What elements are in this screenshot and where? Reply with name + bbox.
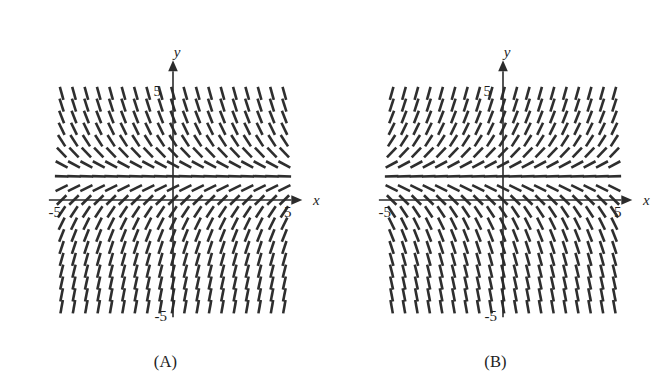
- panel-a-caption: (A): [0, 352, 337, 372]
- svg-text:y: y: [502, 44, 511, 60]
- svg-text:5: 5: [154, 83, 162, 99]
- panel-b: yx5-5-55 (B): [330, 0, 661, 386]
- svg-text:-5: -5: [485, 308, 498, 324]
- svg-text:x: x: [312, 192, 320, 208]
- panel-b-caption: (B): [330, 352, 661, 372]
- svg-text:5: 5: [614, 204, 622, 220]
- panel-a: yx5-5-55 (A): [0, 0, 331, 386]
- svg-text:x: x: [642, 192, 650, 208]
- direction-field-plot-a: yx5-5-55: [0, 0, 331, 350]
- svg-text:-5: -5: [378, 204, 391, 220]
- svg-text:5: 5: [284, 204, 292, 220]
- svg-text:5: 5: [484, 83, 492, 99]
- svg-text:y: y: [172, 44, 181, 60]
- svg-text:-5: -5: [48, 204, 61, 220]
- direction-field-plot-b: yx5-5-55: [330, 0, 661, 350]
- direction-fields-figure: yx5-5-55 (A) yx5-5-55 (B): [0, 0, 661, 386]
- svg-text:-5: -5: [155, 308, 168, 324]
